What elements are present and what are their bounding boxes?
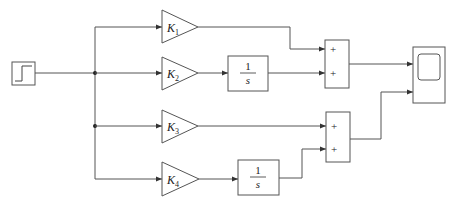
svg-text:+: + xyxy=(331,143,337,155)
gain-k3-block[interactable]: K3 xyxy=(162,110,198,143)
svg-text:1: 1 xyxy=(245,60,251,72)
svg-text:1: 1 xyxy=(255,164,261,176)
svg-text:s: s xyxy=(246,74,250,86)
svg-text:+: + xyxy=(330,67,336,79)
svg-text:+: + xyxy=(330,43,336,55)
step-source-block[interactable] xyxy=(12,62,35,85)
gain-k4-block[interactable]: K4 xyxy=(162,162,199,196)
sum-2-block[interactable]: + + xyxy=(326,112,350,162)
svg-text:+: + xyxy=(331,120,337,132)
scope-block[interactable] xyxy=(413,47,445,103)
signal-wires xyxy=(198,27,413,179)
integrator-2-block[interactable]: 1 s xyxy=(238,160,279,195)
branch-wires xyxy=(35,27,162,179)
sum-1-block[interactable]: + + xyxy=(325,40,349,88)
integrator-1-block[interactable]: 1 s xyxy=(228,56,268,91)
gain-k1-block[interactable]: K1 xyxy=(162,10,198,43)
gain-k2-block[interactable]: K2 xyxy=(162,57,198,90)
block-diagram: K1 K2 K3 K4 1 s 1 s xyxy=(0,0,455,209)
svg-text:s: s xyxy=(256,178,260,190)
